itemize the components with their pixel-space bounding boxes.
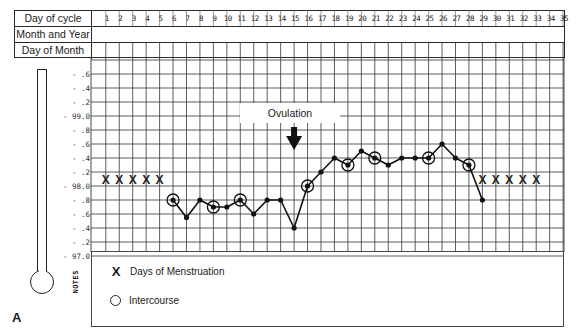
x-mark-icon: X [110, 264, 122, 279]
y-axis-label: - .6 [62, 70, 90, 79]
thermometer-icon [37, 69, 47, 275]
y-axis-label: - .8 [62, 196, 90, 205]
menstruation-x-marker: X [115, 173, 123, 187]
menstruation-x-marker: X [142, 173, 150, 187]
y-axis-label: - .4 [62, 84, 90, 93]
temperature-point [332, 155, 337, 160]
temperature-point [480, 197, 485, 202]
temperature-point [291, 225, 296, 230]
temperature-point [399, 155, 404, 160]
temperature-point [184, 215, 189, 220]
y-axis-label: - .8 [62, 126, 90, 135]
temperature-point [359, 148, 364, 153]
y-axis-label: - 97.0 [62, 252, 90, 261]
notes-label: NOTES [72, 270, 80, 294]
temperature-point [439, 141, 444, 146]
temperature-point [238, 197, 243, 202]
menstruation-x-marker: X [505, 173, 513, 187]
temperature-point [345, 162, 350, 167]
temperature-point [211, 204, 216, 209]
temperature-point [466, 162, 471, 167]
temperature-point [386, 162, 391, 167]
temperature-point [372, 155, 377, 160]
y-axis-label: - 99.0 [62, 112, 90, 121]
legend-label: Intercourse [129, 295, 179, 306]
ovulation-arrow-icon [291, 127, 297, 137]
menstruation-x-marker: X [532, 173, 540, 187]
menstruation-x-marker: X [478, 173, 486, 187]
circle-icon [110, 295, 121, 306]
y-axis-label: - .6 [62, 140, 90, 149]
y-axis-label: - .6 [62, 210, 90, 219]
ovulation-arrow-icon [286, 136, 302, 150]
menstruation-x-marker: X [156, 173, 164, 187]
temperature-point [251, 211, 256, 216]
legend-menstruation: X Days of Menstruation [110, 264, 225, 279]
temperature-point [426, 155, 431, 160]
y-axis-label: - 98.0 [62, 182, 90, 191]
y-axis-label: - .4 [62, 224, 90, 233]
temperature-point [278, 197, 283, 202]
temperature-point [197, 197, 202, 202]
temperature-point [318, 169, 323, 174]
temperature-point [453, 155, 458, 160]
figure-label: A [12, 310, 21, 325]
ovulation-annotation: Ovulation [240, 103, 340, 123]
menstruation-x-marker: X [492, 173, 500, 187]
temperature-point [305, 183, 310, 188]
y-axis-label: - .2 [62, 98, 90, 107]
y-axis-label: - .4 [62, 154, 90, 163]
temperature-point [265, 197, 270, 202]
menstruation-x-marker: X [102, 173, 110, 187]
menstruation-x-marker: X [519, 173, 527, 187]
menstruation-x-marker: X [129, 173, 137, 187]
y-axis-label: - .2 [62, 168, 90, 177]
legend-label: Days of Menstruation [130, 266, 225, 277]
temperature-point [170, 197, 175, 202]
temperature-point [413, 155, 418, 160]
y-axis-label: - .2 [62, 238, 90, 247]
temperature-point [224, 204, 229, 209]
legend-intercourse: Intercourse [110, 295, 179, 306]
